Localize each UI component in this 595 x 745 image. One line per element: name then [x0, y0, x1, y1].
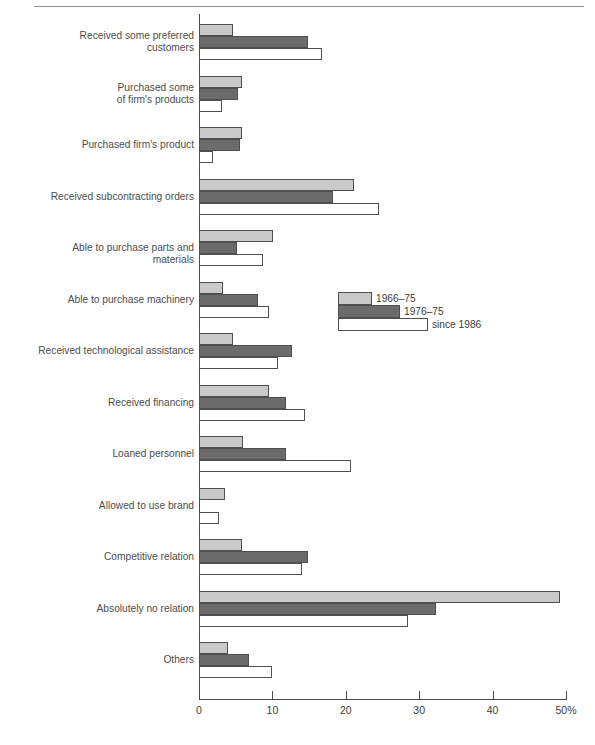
bar: [199, 563, 302, 575]
category-label: Received financing: [34, 397, 194, 409]
bar-group: Others: [0, 642, 595, 678]
bar: [199, 357, 278, 369]
bar: [199, 460, 351, 472]
chart-page: 01020304050% Received some preferred cus…: [0, 0, 595, 745]
x-axis-tick-label: 20: [340, 704, 352, 716]
bar: [199, 191, 333, 203]
bar: [199, 603, 436, 615]
bar-group: Received subcontracting orders: [0, 179, 595, 215]
bar: [199, 88, 238, 100]
legend-swatch-icon: [338, 305, 400, 318]
bar: [199, 24, 233, 36]
bar: [199, 551, 308, 563]
bar-group: Competitive relation: [0, 539, 595, 575]
category-label: Received technological assistance: [34, 345, 194, 357]
x-axis-tick-label: 0: [196, 704, 202, 716]
bar-group: Received technological assistance: [0, 333, 595, 369]
bar: [199, 36, 308, 48]
bar: [199, 242, 237, 254]
category-label: Absolutely no relation: [34, 603, 194, 615]
x-axis-tick-label: 40: [487, 704, 499, 716]
bar: [199, 203, 379, 215]
x-axis-tick: [566, 691, 567, 700]
x-axis-line: [199, 699, 567, 700]
category-label: Received subcontracting orders: [34, 191, 194, 203]
legend-label: since 1986: [432, 318, 481, 331]
bar: [199, 488, 225, 500]
bar: [199, 100, 222, 112]
bar: [199, 397, 286, 409]
bar: [199, 666, 272, 678]
bar: [199, 512, 219, 524]
category-label: Received some preferred customers: [34, 30, 194, 54]
bar-group: Absolutely no relation: [0, 591, 595, 627]
category-label: Purchased some of firm's products: [34, 82, 194, 106]
x-axis-tick: [493, 691, 494, 700]
bar: [199, 539, 242, 551]
x-axis-tick: [419, 691, 420, 700]
x-axis-tick-label: 50%: [555, 704, 576, 716]
category-label: Able to purchase parts and materials: [34, 242, 194, 266]
bar: [199, 409, 305, 421]
bar: [199, 179, 354, 191]
category-label: Purchased firm's product: [34, 139, 194, 151]
bar-group: Loaned personnel: [0, 436, 595, 472]
bar-group: Able to purchase parts and materials: [0, 230, 595, 266]
category-label: Others: [34, 654, 194, 666]
bar: [199, 591, 560, 603]
bar: [199, 306, 269, 318]
x-axis-tick-label: 30: [413, 704, 425, 716]
bar-chart-plot: 01020304050% Received some preferred cus…: [0, 0, 595, 745]
bar: [199, 654, 249, 666]
bar: [199, 448, 286, 460]
bar: [199, 48, 322, 60]
bar-group: Purchased some of firm's products: [0, 76, 595, 112]
bar: [199, 436, 243, 448]
bar: [199, 151, 213, 163]
category-label: Able to purchase machinery: [34, 294, 194, 306]
x-axis-tick-label: 10: [267, 704, 279, 716]
bar: [199, 127, 242, 139]
bar: [199, 254, 263, 266]
bar-group: Purchased firm's product: [0, 127, 595, 163]
bar: [199, 615, 408, 627]
category-label: Allowed to use brand: [34, 500, 194, 512]
legend-label: 1976–75: [404, 305, 444, 318]
x-axis-tick: [199, 691, 200, 700]
legend-swatch-icon: [338, 292, 372, 305]
bar: [199, 230, 273, 242]
bar: [199, 282, 223, 294]
category-label: Competitive relation: [34, 551, 194, 563]
legend-label: 1966–75: [376, 292, 416, 305]
bar: [199, 385, 269, 397]
bar: [199, 76, 242, 88]
bar: [199, 139, 240, 151]
x-axis-tick: [272, 691, 273, 700]
bar-group: Received financing: [0, 385, 595, 421]
bar-group: Able to purchase machinery: [0, 282, 595, 318]
legend-swatch-icon: [338, 318, 428, 331]
category-label: Loaned personnel: [34, 448, 194, 460]
bar: [199, 294, 258, 306]
bar-group: Allowed to use brand: [0, 488, 595, 524]
bar: [199, 642, 228, 654]
bar-group: Received some preferred customers: [0, 24, 595, 60]
bar: [199, 345, 292, 357]
x-axis-tick: [346, 691, 347, 700]
bar: [199, 333, 233, 345]
